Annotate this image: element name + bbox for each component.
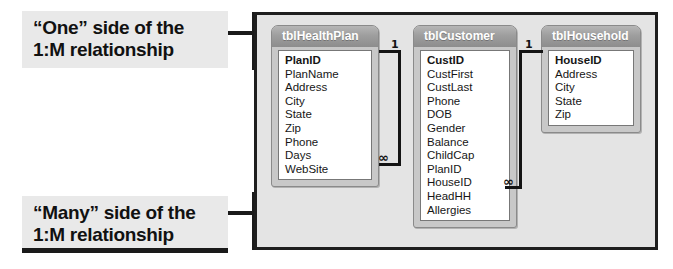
field-row[interactable]: Address — [279, 81, 371, 95]
field-row[interactable]: HouseID — [549, 54, 633, 68]
relationship-many-symbol: ∞ — [378, 153, 389, 163]
field-row[interactable]: State — [549, 95, 633, 109]
field-row[interactable]: PlanID — [421, 163, 509, 177]
table-title-tblcustomer[interactable]: tblCustomer — [414, 26, 516, 47]
field-row[interactable]: Days — [279, 149, 371, 163]
relationship-one-symbol: 1 — [391, 40, 399, 50]
relationship-line-rel2-vertical[interactable] — [519, 50, 522, 189]
field-row[interactable]: CustID — [421, 54, 509, 68]
field-row[interactable]: Gender — [421, 122, 509, 136]
callout-one-side: “One” side of the 1:M relationship — [22, 11, 228, 68]
field-row[interactable]: Balance — [421, 136, 509, 150]
table-tblhousehold[interactable]: tblHousehold HouseID Address City State … — [541, 25, 641, 133]
field-row[interactable]: Address — [549, 68, 633, 82]
callout-many-line2: 1:M relationship — [33, 224, 218, 246]
field-row[interactable]: City — [279, 95, 371, 109]
relationship-one-symbol: 1 — [525, 40, 533, 50]
field-row[interactable]: Allergies — [421, 204, 509, 218]
callout-many-line1: “Many” side of the — [33, 202, 195, 223]
field-row[interactable]: City — [549, 81, 633, 95]
field-row[interactable]: PlanName — [279, 68, 371, 82]
callout-one-line1: “One” side of the — [33, 17, 184, 38]
relationship-line-rel1-vertical[interactable] — [398, 50, 401, 166]
field-row[interactable]: Zip — [279, 122, 371, 136]
relationships-canvas: tblHealthPlan PlanID PlanName Address Ci… — [254, 12, 658, 250]
callout-many-side: “Many” side of the 1:M relationship — [22, 196, 228, 253]
field-row[interactable]: State — [279, 108, 371, 122]
field-row[interactable]: Zip — [549, 108, 633, 122]
field-row[interactable]: HouseID — [421, 176, 509, 190]
field-row[interactable]: ChildCap — [421, 149, 509, 163]
relationship-many-symbol: ∞ — [503, 177, 514, 187]
callout-one-line2: 1:M relationship — [33, 39, 218, 61]
field-row[interactable]: Phone — [421, 95, 509, 109]
table-tblcustomer[interactable]: tblCustomer CustID CustFirst CustLast Ph… — [413, 25, 517, 228]
table-title-tblhousehold[interactable]: tblHousehold — [542, 26, 640, 47]
field-row[interactable]: Phone — [279, 136, 371, 150]
field-row[interactable]: HeadHH — [421, 190, 509, 204]
field-list-tblcustomer: CustID CustFirst CustLast Phone DOB Gend… — [420, 50, 510, 221]
field-row[interactable]: CustFirst — [421, 68, 509, 82]
field-list-tblhealthplan: PlanID PlanName Address City State Zip P… — [278, 50, 372, 180]
table-title-tblhealthplan[interactable]: tblHealthPlan — [272, 26, 378, 47]
table-tblhealthplan[interactable]: tblHealthPlan PlanID PlanName Address Ci… — [271, 25, 379, 187]
field-row[interactable]: PlanID — [279, 54, 371, 68]
field-row[interactable]: WebSite — [279, 163, 371, 177]
field-list-tblhousehold: HouseID Address City State Zip — [548, 50, 634, 126]
field-row[interactable]: DOB — [421, 108, 509, 122]
field-row[interactable]: CustLast — [421, 81, 509, 95]
